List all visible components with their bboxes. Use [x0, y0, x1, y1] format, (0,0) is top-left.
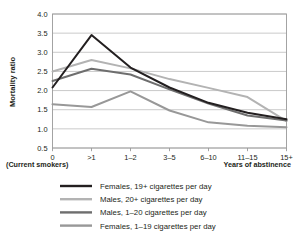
y-axis-ticks: 0.51.01.52.02.53.03.54.0: [37, 10, 47, 153]
gridlines: [53, 14, 287, 148]
x-tick-label: 1–2: [124, 153, 136, 162]
y-tick-label: 2.0: [37, 86, 47, 95]
plot-frame: [53, 14, 287, 148]
y-tick-label: 0.5: [37, 144, 47, 153]
data-series: [53, 35, 287, 127]
y-tick-label: 4.0: [37, 10, 47, 19]
legend-label: Females, 1–19 cigarettes per day: [100, 222, 216, 231]
y-tick-label: 3.0: [37, 48, 47, 57]
y-axis-title: Mortality ratio: [8, 57, 17, 108]
x-axis-title-right: Years of abstinence: [223, 160, 291, 169]
x-axis-title-left: (Current smokers): [6, 160, 69, 169]
legend-label: Males, 20+ cigarettes per day: [100, 195, 203, 204]
x-tick-label: 6–10: [200, 153, 216, 162]
x-tick-label: 3–5: [163, 153, 175, 162]
y-tick-label: 2.5: [37, 67, 47, 76]
x-tick-label: >1: [87, 153, 95, 162]
legend-label: Males, 1–20 cigarettes per day: [100, 208, 207, 217]
y-tick-label: 3.5: [37, 29, 47, 38]
chart-legend: Females, 19+ cigarettes per dayMales, 20…: [60, 182, 216, 231]
mortality-ratio-chart: 0.51.01.52.02.53.03.54.0 0>11–23–56–1011…: [0, 0, 297, 239]
chart-canvas: 0.51.01.52.02.53.03.54.0 0>11–23–56–1011…: [0, 0, 297, 239]
plot-border: [53, 14, 287, 148]
legend-label: Females, 19+ cigarettes per day: [100, 182, 212, 191]
y-tick-label: 1.0: [37, 125, 47, 134]
y-tick-label: 1.5: [37, 105, 47, 114]
